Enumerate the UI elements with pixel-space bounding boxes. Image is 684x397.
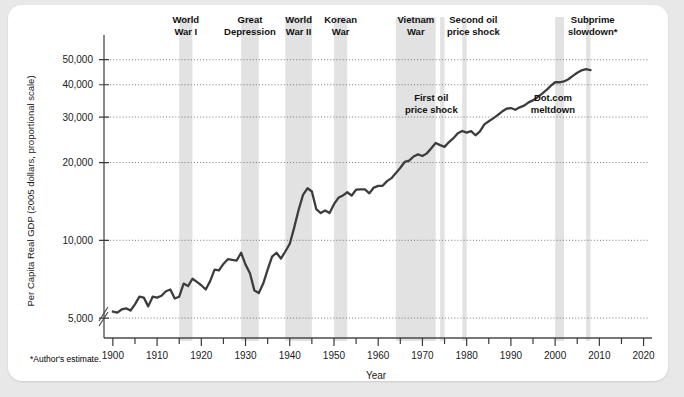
annotation-line1: World <box>172 14 199 25</box>
x-tick-label-1910: 1910 <box>146 350 169 361</box>
x-tick-label-1930: 1930 <box>234 350 257 361</box>
event-annotations: WorldWar IGreatDepressionWorldWar IIKore… <box>172 14 617 115</box>
annotation-line1: Dot.com <box>534 92 572 103</box>
x-tick-label-2000: 2000 <box>544 350 567 361</box>
x-tick-label-2010: 2010 <box>588 350 611 361</box>
x-tick-label-1950: 1950 <box>323 350 346 361</box>
annotation-line2: War <box>332 26 350 37</box>
annotation-dot-com-meltdown: Dot.commeltdown <box>531 92 576 115</box>
event-band-5 <box>440 17 444 341</box>
annotation-line2: price shock <box>405 104 459 115</box>
annotation-line1: Vietnam <box>397 14 434 25</box>
x-tick-label-1920: 1920 <box>190 350 213 361</box>
annotation-world-war-i: WorldWar I <box>172 14 199 37</box>
annotation-line1: Second oil <box>449 14 497 25</box>
y-tick-label-30000: 30,000 <box>62 112 93 123</box>
x-tick-label-1960: 1960 <box>367 350 390 361</box>
annotation-line2: War II <box>286 26 312 37</box>
x-axis-title: Year <box>366 370 387 381</box>
annotation-line1: World <box>285 14 312 25</box>
annotation-line2: slowdown* <box>568 26 618 37</box>
x-tick-label-1980: 1980 <box>456 350 479 361</box>
annotation-great-depression: GreatDepression <box>224 14 276 37</box>
annotation-world-war-ii: WorldWar II <box>285 14 312 37</box>
annotation-line1: Korean <box>324 14 357 25</box>
x-tick-label-1970: 1970 <box>411 350 434 361</box>
x-tick-label-2020: 2020 <box>632 350 655 361</box>
x-tick-label-1990: 1990 <box>500 350 523 361</box>
event-band-6 <box>462 17 466 341</box>
annotation-line2: price shock <box>447 26 501 37</box>
event-band-4 <box>396 17 436 341</box>
x-tick-label-1940: 1940 <box>279 350 302 361</box>
annotation-line1: Great <box>238 14 264 25</box>
annotation-line1: Subprime <box>571 14 615 25</box>
x-tick-label-1900: 1900 <box>102 350 125 361</box>
event-band-7 <box>555 17 564 341</box>
annotation-korean-war: KoreanWar <box>324 14 357 37</box>
annotation-line2: meltdown <box>531 104 576 115</box>
y-tick-label-10000: 10,000 <box>62 235 93 246</box>
y-tick-label-40000: 40,000 <box>62 79 93 90</box>
annotation-subprime-slowdown: Subprimeslowdown* <box>568 14 618 37</box>
y-axis-title: Per Capita Real GDP (2005 dollars, propo… <box>25 75 36 306</box>
chart-card: 5,00010,00020,00030,00040,00050,000 1900… <box>8 5 668 381</box>
shaded-event-bands <box>179 17 590 341</box>
annotation-second-oil-price-shock: Second oilprice shock <box>447 14 501 37</box>
x-tick-labels: 1900191019201930194019501960197019801990… <box>102 350 655 361</box>
y-tick-label-50000: 50,000 <box>62 54 93 65</box>
annotation-line2: Depression <box>224 26 276 37</box>
y-tick-label-20000: 20,000 <box>62 157 93 168</box>
y-tick-labels: 5,00010,00020,00030,00040,00050,000 <box>62 54 93 323</box>
gdp-line-chart: 5,00010,00020,00030,00040,00050,000 1900… <box>8 5 668 381</box>
footnote: *Author's estimate. <box>30 354 101 364</box>
event-band-8 <box>586 17 590 341</box>
y-tick-label-5000: 5,000 <box>68 313 93 324</box>
event-band-3 <box>334 17 347 341</box>
annotation-line2: War <box>407 26 425 37</box>
chart-plot-area: 5,00010,00020,00030,00040,00050,000 1900… <box>8 5 668 381</box>
event-band-2 <box>285 17 312 341</box>
annotation-line2: War I <box>174 26 197 37</box>
annotation-line1: First oil <box>414 92 448 103</box>
